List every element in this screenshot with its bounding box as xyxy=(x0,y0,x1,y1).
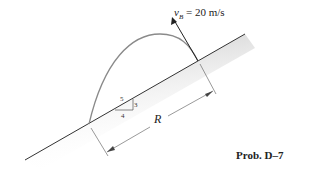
velocity-equals: = xyxy=(183,6,195,18)
slope-rise-label: 3 xyxy=(134,101,138,109)
velocity-vector xyxy=(174,20,198,61)
dimension-arrow-lower-icon xyxy=(107,146,115,152)
slope-run-label: 4 xyxy=(121,112,125,120)
problem-caption: Prob. D–7 xyxy=(236,149,283,161)
dimension-arrow-upper-icon xyxy=(205,91,213,97)
ground-shading xyxy=(25,34,255,170)
velocity-value: 20 m/s xyxy=(195,6,225,18)
slope-hyp-label: 5 xyxy=(120,95,124,103)
velocity-label: vB = 20 m/s xyxy=(174,6,225,21)
incline-surface xyxy=(25,34,245,160)
range-label: R xyxy=(154,112,161,127)
